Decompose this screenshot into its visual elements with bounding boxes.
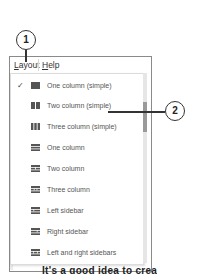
menu-item-one-column[interactable]: One column <box>11 138 143 158</box>
menu-item-left-right-sidebars[interactable]: Left and right sidebars <box>11 243 143 263</box>
one-column-icon <box>31 144 40 151</box>
callout-1-leader-line <box>25 50 27 62</box>
menu-item-label: Three column (simple) <box>47 123 117 130</box>
menu-item-label: Two column (simple) <box>47 102 111 109</box>
document-body-text: It's a good idea to crea <box>42 266 157 274</box>
menu-item-label: Two column <box>47 165 84 172</box>
menu-item-label: Left and right sidebars <box>47 249 116 256</box>
menu-item-three-column[interactable]: Three column <box>11 180 143 200</box>
left-right-sidebars-icon <box>31 249 40 256</box>
menu-item-label: One column <box>47 144 85 151</box>
menu-help[interactable]: Help <box>42 60 59 70</box>
three-column-simple-icon <box>31 123 40 130</box>
callout-2-leader-line <box>108 111 165 113</box>
layout-dropdown-menu: ✓ One column (simple) Two column (simple… <box>10 73 144 265</box>
right-sidebar-icon <box>31 228 40 235</box>
menu-item-label: Left sidebar <box>47 207 84 214</box>
three-column-icon <box>31 186 40 193</box>
two-column-icon <box>31 165 40 172</box>
two-column-simple-icon <box>31 102 40 109</box>
menu-layout[interactable]: Layout <box>14 60 40 70</box>
menu-layout-label: ayout <box>19 60 40 70</box>
one-column-simple-icon <box>31 82 40 89</box>
menu-item-label: Three column <box>47 186 90 193</box>
menu-item-two-column[interactable]: Two column <box>11 159 143 179</box>
menubar-separator <box>38 59 39 71</box>
checkmark-icon: ✓ <box>17 81 24 90</box>
right-scroll-thumb[interactable] <box>143 102 147 132</box>
menubar: Layout Help <box>10 57 150 73</box>
menu-item-left-sidebar[interactable]: Left sidebar <box>11 201 143 221</box>
callout-1: 1 <box>16 30 36 50</box>
menu-item-right-sidebar[interactable]: Right sidebar <box>11 222 143 242</box>
menu-item-label: One column (simple) <box>47 82 112 89</box>
menu-help-label: elp <box>48 60 59 70</box>
callout-2: 2 <box>165 101 185 121</box>
left-sidebar-icon <box>31 207 40 214</box>
menu-item-three-column-simple[interactable]: Three column (simple) <box>11 117 143 137</box>
menu-item-one-column-simple[interactable]: ✓ One column (simple) <box>11 76 143 96</box>
menu-item-label: Right sidebar <box>47 228 88 235</box>
menu-item-two-column-simple[interactable]: Two column (simple) <box>11 96 143 116</box>
